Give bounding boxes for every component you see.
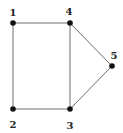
edge-3-5: [70, 66, 112, 109]
node-4: [67, 20, 73, 26]
edges-group: [13, 23, 112, 109]
node-label-2: 2: [10, 119, 17, 130]
graph-diagram: 12345: [0, 0, 123, 133]
node-label-3: 3: [67, 120, 74, 131]
node-3: [67, 106, 73, 112]
node-5: [109, 63, 115, 69]
node-1: [10, 20, 16, 26]
node-label-4: 4: [66, 6, 73, 17]
labels-group: 12345: [10, 6, 118, 131]
nodes-group: [10, 20, 115, 112]
edge-4-5: [70, 23, 112, 66]
node-label-5: 5: [111, 50, 118, 61]
node-label-1: 1: [10, 7, 17, 18]
node-2: [10, 106, 16, 112]
